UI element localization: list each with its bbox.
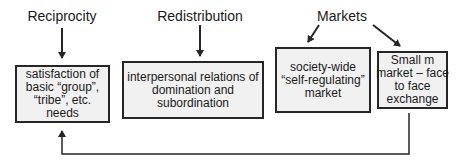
box-line: market: [281, 87, 364, 100]
box-line: “self-regulating”: [281, 74, 364, 87]
box-line: subordination: [127, 97, 258, 110]
category-markets: Markets: [317, 8, 367, 24]
box-line: society-wide: [281, 61, 364, 74]
box-self-regulating-market: society-wide “self-regulating” market: [275, 47, 371, 113]
box-small-m-market: Small m market – face to face exchange: [377, 51, 448, 109]
box-line: needs: [26, 107, 99, 120]
arrow-markets-to-self-regulating: [308, 25, 319, 42]
feedback-arrow-small-m-to-needs: [62, 113, 409, 154]
box-basic-needs: satisfaction of basic “group”, “tribe”, …: [15, 65, 110, 123]
box-line: exchange: [376, 93, 449, 106]
box-domination: interpersonal relations of domination an…: [122, 61, 264, 119]
arrow-markets-to-small-m: [373, 25, 400, 46]
box-line: domination and: [127, 84, 258, 97]
box-line: interpersonal relations of: [127, 71, 258, 84]
category-reciprocity: Reciprocity: [27, 8, 96, 24]
category-redistribution: Redistribution: [157, 8, 243, 24]
